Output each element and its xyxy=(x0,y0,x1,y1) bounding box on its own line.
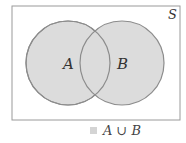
universe-label: S xyxy=(168,7,177,22)
legend-label: A ∪ B xyxy=(103,123,141,138)
set-b-label: B xyxy=(116,55,128,73)
legend: A ∪ B xyxy=(90,123,141,138)
venn-diagram: S A B xyxy=(0,0,186,143)
legend-swatch-icon xyxy=(90,127,97,134)
set-a-label: A xyxy=(61,55,74,73)
